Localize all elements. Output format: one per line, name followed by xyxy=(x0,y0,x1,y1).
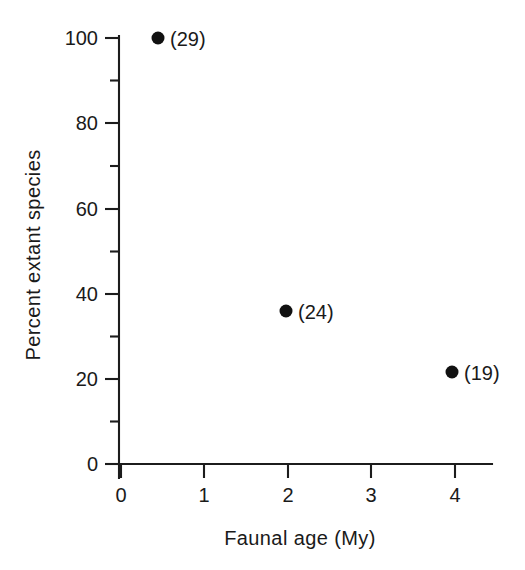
y-tick-label: 80 xyxy=(76,112,98,134)
x-axis-major-ticks xyxy=(121,464,455,478)
y-axis-title: Percent extant species xyxy=(22,149,44,360)
x-tick-label: 2 xyxy=(282,484,293,506)
data-point-label: (29) xyxy=(170,28,206,50)
data-series: (29) (24) (19) xyxy=(152,28,500,384)
y-tick-label: 40 xyxy=(76,283,98,305)
data-point-label: (19) xyxy=(464,362,500,384)
data-point-label: (24) xyxy=(298,301,334,323)
data-point xyxy=(152,32,165,45)
x-tick-label: 4 xyxy=(449,484,460,506)
y-axis-minor-ticks xyxy=(110,81,119,422)
x-axis-title: Faunal age (My) xyxy=(224,527,376,549)
x-tick-label: 3 xyxy=(365,484,376,506)
x-tick-label: 0 xyxy=(115,484,126,506)
y-tick-label: 0 xyxy=(87,453,98,475)
y-axis-tick-labels: 100 80 60 40 20 0 xyxy=(65,27,98,475)
data-point xyxy=(446,366,459,379)
y-tick-label: 60 xyxy=(76,198,98,220)
x-axis-tick-labels: 0 1 2 3 4 xyxy=(115,484,460,506)
scatter-plot-figure: 100 80 60 40 20 0 0 1 2 3 4 (29) xyxy=(0,0,525,570)
x-tick-label: 1 xyxy=(198,484,209,506)
data-point xyxy=(280,305,293,318)
y-tick-label: 100 xyxy=(65,27,98,49)
plot-canvas: 100 80 60 40 20 0 0 1 2 3 4 (29) xyxy=(0,0,525,570)
y-tick-label: 20 xyxy=(76,368,98,390)
